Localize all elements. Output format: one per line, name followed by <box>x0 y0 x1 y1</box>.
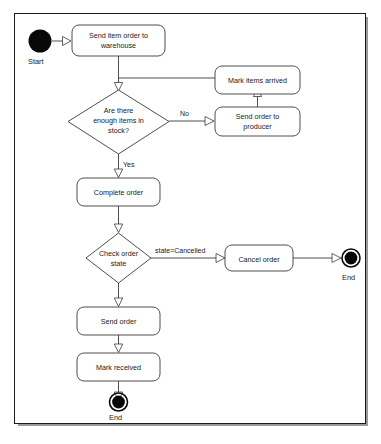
final-node-dot-icon <box>112 396 125 409</box>
node-label-check-order-state-line1: Check order <box>99 249 139 258</box>
edge-send-item-order-to-stock-decision[interactable] <box>114 78 122 91</box>
node-label-send-order-producer-line2: producer <box>243 122 272 131</box>
node-mark-received[interactable]: Mark received <box>77 353 160 381</box>
final-node-dot-icon <box>345 252 358 265</box>
activity-diagram-canvas[interactable]: No Yes state=Cancelled <box>15 14 364 422</box>
node-end-cancelled[interactable]: End <box>342 249 360 282</box>
edge-cancel-order-to-end-cancelled[interactable] <box>292 254 341 263</box>
edge-label-state-cancelled: state=Cancelled <box>155 247 206 254</box>
edge-start-to-send-item-order[interactable] <box>52 37 71 46</box>
node-label-mark-received: Mark received <box>96 363 141 372</box>
node-label-send-order-producer-line1: Send order to <box>236 112 280 121</box>
node-cancel-order[interactable]: Cancel order <box>225 245 293 271</box>
node-label-send-order: Send order <box>101 317 137 326</box>
node-label-end-cancelled: End <box>342 273 355 282</box>
node-label-cancel-order: Cancel order <box>238 255 280 264</box>
node-label-end-completed: End <box>109 413 122 422</box>
node-label-stock-decision-line1: Are there <box>104 106 134 115</box>
diagram-page: No Yes state=Cancelled <box>0 0 381 444</box>
initial-node-icon <box>29 30 52 53</box>
node-label-mark-items-arrived: Mark items arrived <box>228 76 287 85</box>
node-label-send-item-order-line1: Send item order to <box>89 31 148 40</box>
edge-stock-decision-no-to-send-order-producer[interactable]: No <box>169 110 214 126</box>
edge-label-no: No <box>180 110 189 117</box>
node-label-complete-order: Complete order <box>94 188 144 197</box>
node-send-order-to-producer[interactable]: Send order to producer <box>215 107 300 136</box>
node-check-order-state[interactable]: Check order state <box>86 233 151 283</box>
node-label-stock-decision-line3: stock? <box>108 126 129 135</box>
edge-send-order-to-mark-received[interactable] <box>114 335 122 353</box>
edge-complete-order-to-check-order-state[interactable] <box>114 206 122 233</box>
node-label-check-order-state-line2: state <box>111 259 127 268</box>
diagram-frame: No Yes state=Cancelled <box>14 13 366 424</box>
node-label-send-item-order-line2: warehouse <box>100 41 136 50</box>
node-label-start: Start <box>28 57 44 66</box>
edge-check-order-state-to-send-order[interactable] <box>114 283 122 307</box>
node-end-completed[interactable]: End <box>109 393 128 422</box>
node-stock-decision[interactable]: Are there enough items in stock? <box>68 90 169 154</box>
edge-label-yes: Yes <box>123 161 135 168</box>
node-mark-items-arrived[interactable]: Mark items arrived <box>215 66 300 94</box>
node-label-stock-decision-line2: enough items in <box>93 116 144 125</box>
node-complete-order[interactable]: Complete order <box>77 178 160 206</box>
node-start[interactable]: Start <box>28 30 52 67</box>
edge-send-item-order-to-mark-items-arrived[interactable] <box>119 56 216 78</box>
edge-stock-decision-yes-to-complete-order[interactable]: Yes <box>114 154 135 178</box>
node-send-order[interactable]: Send order <box>77 307 160 335</box>
node-send-item-order-to-warehouse[interactable]: Send item order to warehouse <box>72 25 165 56</box>
edge-check-order-state-to-cancel-order[interactable]: state=Cancelled <box>151 247 225 263</box>
